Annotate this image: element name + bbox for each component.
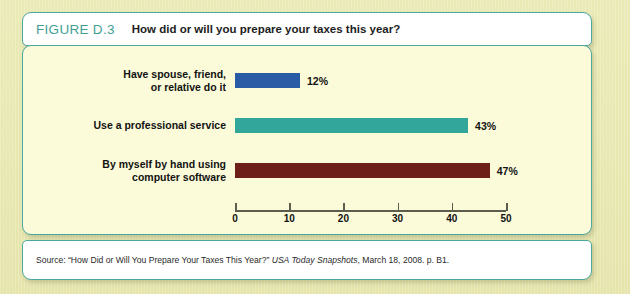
- bar-row: By myself by hand using computer softwar…: [23, 158, 593, 183]
- source-panel: Source: “How Did or Will You Prepare You…: [22, 240, 592, 280]
- bar-category-label: Have spouse, friend, or relative do it: [23, 68, 235, 93]
- axis-tick: [235, 203, 237, 211]
- x-axis-line: [235, 210, 506, 212]
- source-suffix: , March 18, 2008. p. B1.: [358, 255, 450, 265]
- axis-tick: [398, 203, 400, 211]
- axis-tick: [343, 203, 345, 211]
- x-axis: 01020304050: [235, 202, 535, 224]
- axis-tick: [289, 203, 291, 211]
- chart-panel: Have spouse, friend, or relative do it12…: [22, 45, 592, 235]
- bar: [235, 118, 468, 133]
- bar-value-label: 47%: [497, 165, 518, 177]
- axis-tick: [452, 203, 454, 211]
- bar: [235, 73, 300, 88]
- bar-category-label: Use a professional service: [23, 119, 235, 132]
- axis-tick-label: 0: [232, 213, 238, 224]
- axis-tick: [506, 203, 508, 211]
- bar-value-label: 12%: [307, 75, 328, 87]
- source-publication: USA Today Snapshots: [272, 255, 358, 265]
- axis-tick-label: 10: [284, 213, 295, 224]
- axis-tick-label: 40: [446, 213, 457, 224]
- bar-value-label: 43%: [475, 120, 496, 132]
- bar-category-label: By myself by hand using computer softwar…: [23, 158, 235, 183]
- figure-header: FIGURE D.3 How did or will you prepare y…: [22, 12, 592, 46]
- bar-row: Use a professional service43%: [23, 118, 593, 133]
- source-note: Source: “How Did or Will You Prepare You…: [36, 255, 449, 265]
- axis-tick-label: 50: [500, 213, 511, 224]
- bar: [235, 163, 490, 178]
- figure-title: How did or will you prepare your taxes t…: [132, 23, 400, 35]
- bar-row: Have spouse, friend, or relative do it12…: [23, 68, 593, 93]
- source-prefix: Source: “How Did or Will You Prepare You…: [36, 255, 269, 265]
- axis-tick-label: 30: [392, 213, 403, 224]
- bar-chart: Have spouse, friend, or relative do it12…: [23, 46, 593, 236]
- axis-tick-label: 20: [338, 213, 349, 224]
- figure-number: FIGURE D.3: [36, 22, 115, 37]
- figure-container: FIGURE D.3 How did or will you prepare y…: [22, 12, 592, 280]
